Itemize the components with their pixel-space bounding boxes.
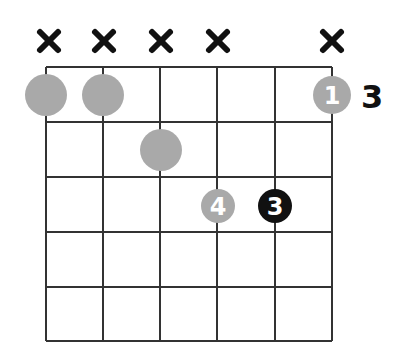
mute-x-icon-string-3 [152, 32, 170, 50]
chord-diagram: 1 4 3 3 [0, 0, 411, 364]
mute-x-icon-string-2 [95, 32, 113, 50]
mute-x-icon-string-4 [209, 32, 227, 50]
finger-number: 4 [210, 193, 227, 221]
note-dot-string-1-fret-1 [25, 74, 67, 116]
note-dots: 1 4 3 [25, 74, 351, 223]
start-fret-label: 3 [361, 78, 383, 116]
note-dot-string-5-fret-3: 3 [258, 189, 292, 223]
note-dot-string-4-fret-3: 4 [201, 189, 235, 223]
note-dot-string-2-fret-1 [82, 74, 124, 116]
finger-number: 1 [324, 82, 341, 110]
note-dot-string-3-fret-2 [140, 129, 182, 171]
note-dot-string-6-fret-1: 1 [313, 76, 351, 114]
mute-x-icon-string-1 [40, 32, 58, 50]
mute-markers [40, 32, 341, 50]
mute-x-icon-string-6 [323, 32, 341, 50]
finger-number: 3 [267, 193, 284, 221]
